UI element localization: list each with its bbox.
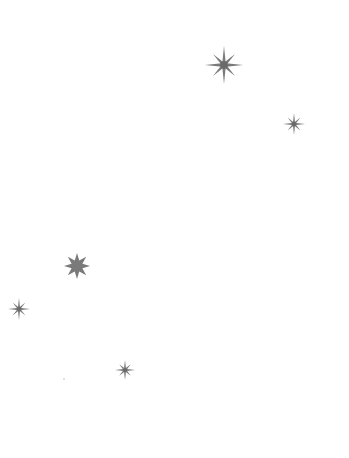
speck-dot — [63, 378, 65, 380]
asterisk-star-icon — [8, 298, 30, 320]
asterisk-star-icon — [283, 113, 305, 135]
asterisk-star-icon — [115, 360, 135, 380]
star-field-canvas — [0, 0, 349, 458]
asterisk-star-icon — [205, 46, 243, 84]
filled-star-icon — [64, 253, 90, 279]
star-field — [0, 0, 349, 458]
